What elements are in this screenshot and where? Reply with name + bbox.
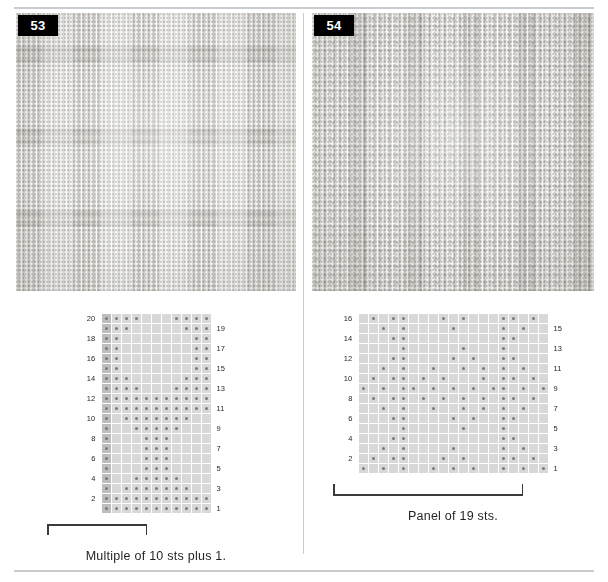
chart-cell: [152, 394, 161, 403]
chart-cell: [409, 464, 418, 473]
purl-dot-icon: [402, 317, 405, 320]
chart-cell: [459, 394, 468, 403]
purl-dot-icon: [165, 477, 168, 480]
chart-cell: [192, 444, 201, 453]
chart-cell: [112, 414, 121, 423]
purl-dot-icon: [105, 367, 108, 370]
row-number-right: 11: [217, 405, 233, 413]
chart-cell: [439, 434, 448, 443]
purl-dot-icon: [462, 367, 465, 370]
chart-cell: [479, 414, 488, 423]
chart-cell: [469, 364, 478, 373]
chart-cell: [519, 344, 528, 353]
chart-cell: [102, 344, 111, 353]
chart-cell: [359, 364, 368, 373]
chart-cell: [152, 434, 161, 443]
chart-cell: [519, 394, 528, 403]
chart-cell: [419, 344, 428, 353]
purl-dot-icon: [382, 367, 385, 370]
chart-cell: [152, 364, 161, 373]
chart-cell: [469, 434, 478, 443]
purl-dot-icon: [125, 417, 128, 420]
chart-cell: [459, 444, 468, 453]
chart-cell: [112, 314, 121, 323]
chart-cell: [162, 384, 171, 393]
chart-cell: [172, 334, 181, 343]
chart-cell: [172, 404, 181, 413]
chart-cell: [409, 444, 418, 453]
chart-cell: [519, 424, 528, 433]
swatch-photo-54: 54: [312, 13, 594, 291]
row-number-left: 2: [80, 495, 96, 503]
chart-cell: [122, 464, 131, 473]
chart-cell: [172, 384, 181, 393]
row-number-right: 11: [554, 365, 570, 373]
chart-cell: [192, 484, 201, 493]
chart-cell: [369, 454, 378, 463]
chart-cell: [142, 314, 151, 323]
chart-cell: [459, 374, 468, 383]
chart-cell: [519, 334, 528, 343]
chart-cell: [399, 464, 408, 473]
purl-dot-icon: [175, 417, 178, 420]
purl-dot-icon: [195, 397, 198, 400]
chart-cell: [122, 474, 131, 483]
chart-cell: [479, 314, 488, 323]
purl-dot-icon: [145, 467, 148, 470]
chart-cell: [479, 374, 488, 383]
purl-dot-icon: [462, 397, 465, 400]
purl-dot-icon: [512, 337, 515, 340]
purl-dot-icon: [502, 447, 505, 450]
chart-cell: [439, 454, 448, 463]
chart-cell: [102, 364, 111, 373]
purl-dot-icon: [195, 377, 198, 380]
chart-cell: [112, 434, 121, 443]
purl-dot-icon: [155, 437, 158, 440]
purl-dot-icon: [135, 427, 138, 430]
chart-cell: [389, 404, 398, 413]
chart-cell: [519, 414, 528, 423]
purl-dot-icon: [105, 327, 108, 330]
purl-dot-icon: [145, 497, 148, 500]
chart-cell: [112, 444, 121, 453]
purl-dot-icon: [155, 407, 158, 410]
purl-dot-icon: [195, 407, 198, 410]
chart-cell: [152, 484, 161, 493]
chart-cell: [509, 324, 518, 333]
chart-cell: [112, 364, 121, 373]
chart-cell: [162, 334, 171, 343]
chart-cell: [359, 334, 368, 343]
chart-cell: [202, 314, 211, 323]
chart-cell: [132, 484, 141, 493]
chart-cell: [142, 334, 151, 343]
chart-cell: [469, 454, 478, 463]
chart-cell: [172, 354, 181, 363]
chart-cell: [529, 364, 538, 373]
chart-cell: [509, 444, 518, 453]
chart-cell: [399, 314, 408, 323]
purl-dot-icon: [105, 497, 108, 500]
row-number-left: 16: [80, 355, 96, 363]
chart-cell: [409, 394, 418, 403]
chart-cell: [359, 344, 368, 353]
chart-cell: [429, 424, 438, 433]
purl-dot-icon: [105, 447, 108, 450]
chart-cell: [499, 464, 508, 473]
chart-cell: [152, 404, 161, 413]
chart-cell: [369, 344, 378, 353]
purl-dot-icon: [145, 427, 148, 430]
purl-dot-icon: [402, 377, 405, 380]
chart-cell: [112, 424, 121, 433]
chart-cell: [122, 504, 131, 513]
chart-cell: [479, 354, 488, 363]
purl-dot-icon: [125, 407, 128, 410]
row-number-right: 5: [217, 465, 233, 473]
purl-dot-icon: [402, 427, 405, 430]
chart-cell: [399, 424, 408, 433]
chart-cell: [162, 454, 171, 463]
chart-cell: [202, 424, 211, 433]
chart-cell: [499, 314, 508, 323]
chart-cell: [409, 384, 418, 393]
bracket-tick-left: [47, 524, 49, 535]
chart-cell: [192, 494, 201, 503]
